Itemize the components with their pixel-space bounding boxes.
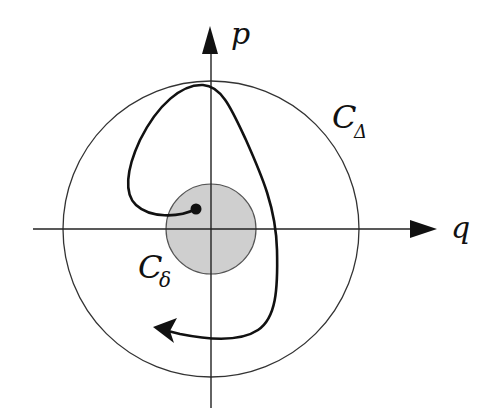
trajectory-start-dot	[191, 204, 202, 215]
outer-circle-label-subscript: Δ	[353, 121, 367, 142]
q-axis-arrowhead-icon	[410, 220, 437, 238]
p-axis-label: p	[231, 16, 250, 51]
p-axis-arrowhead-icon	[202, 26, 218, 54]
q-axis-label: q	[451, 210, 470, 245]
phase-diagram: p q C Δ C δ	[0, 0, 497, 413]
outer-circle-label: C	[332, 98, 356, 136]
trajectory-arrowhead-icon	[153, 318, 177, 343]
inner-disk-label-subscript: δ	[159, 268, 171, 292]
